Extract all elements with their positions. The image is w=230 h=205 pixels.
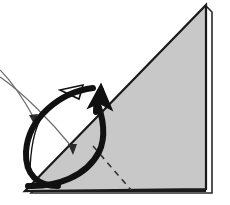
- diagram-canvas: [0, 0, 230, 205]
- origami-diagram: [0, 0, 230, 205]
